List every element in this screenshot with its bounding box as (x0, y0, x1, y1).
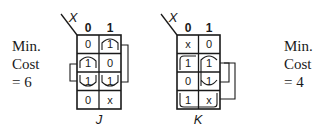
wrap-bracket (220, 63, 235, 99)
col-header: 0 (85, 21, 92, 35)
wrap-bracket-right (121, 45, 128, 82)
karnaugh-maps: X 0 1 0 1 1 0 1 1 0 x J X 0 1 x 0 1 1 0 … (0, 0, 315, 134)
cell: 1 (185, 57, 191, 69)
cell: 1 (85, 57, 91, 69)
kmap-j (61, 14, 128, 109)
cell: 1 (107, 75, 113, 87)
col-header: 0 (185, 21, 192, 35)
cell: x (107, 94, 113, 106)
corner-variable: X (68, 10, 79, 25)
map-label: J (95, 112, 103, 127)
corner-variable: X (168, 10, 179, 25)
cell: x (185, 38, 191, 50)
cell: 1 (107, 38, 113, 50)
cell: 1 (85, 75, 91, 87)
wrap-bracket (220, 63, 229, 82)
wrap-bracket-left (70, 64, 77, 81)
cell: 0 (206, 38, 212, 50)
cell: x (206, 94, 212, 106)
map-label: K (194, 112, 204, 127)
cell: 1 (206, 75, 212, 87)
cell: 0 (85, 38, 91, 50)
kmap-k (161, 14, 235, 109)
cell: 1 (185, 94, 191, 106)
cell: 0 (85, 94, 91, 106)
col-header: 1 (206, 21, 213, 35)
cell: 0 (107, 57, 113, 69)
col-header: 1 (107, 21, 114, 35)
cell: 1 (206, 57, 212, 69)
cell: 0 (185, 75, 191, 87)
